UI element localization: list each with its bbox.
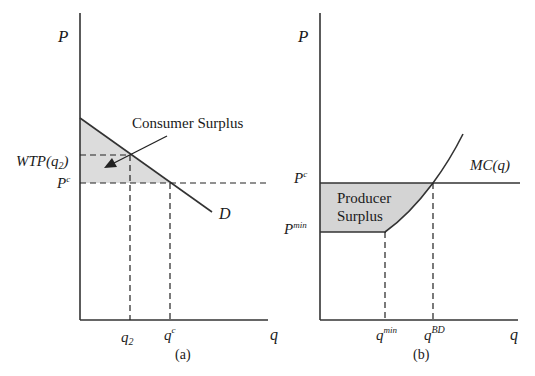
qmin-label: qmin	[376, 325, 398, 343]
surplus-diagram: P Consumer Surplus WTP(q2) Pc D q2 qc q …	[0, 0, 535, 376]
demand-curve-label: D	[218, 205, 231, 222]
panel-b-y-axis-label: P	[297, 27, 308, 46]
producer-surplus-label-line2: Surplus	[337, 208, 383, 224]
panel-a-x-axis-label: q	[270, 326, 278, 344]
pmin-label: Pmin	[283, 220, 307, 237]
panel-b-caption: (b)	[413, 347, 430, 363]
qc-label: qc	[164, 325, 176, 343]
panel-a-caption: (a)	[175, 347, 191, 363]
qbd-label: qBD	[424, 324, 446, 343]
producer-surplus-label-line1: Producer	[337, 190, 391, 206]
panel-a-consumer-surplus: P Consumer Surplus WTP(q2) Pc D q2 qc q …	[16, 13, 278, 363]
pc-label-a: Pc	[56, 174, 70, 191]
panel-b-producer-surplus: P MC(q) Pc Producer Surplus Pmin qmin qB…	[283, 13, 520, 363]
consumer-surplus-label: Consumer Surplus	[132, 115, 243, 131]
wtp-q2-label: WTP(q2)	[16, 153, 69, 171]
panel-a-y-axis-label: P	[57, 27, 68, 46]
panel-b-x-axis-label: q	[510, 326, 518, 344]
pc-label-b: Pc	[293, 169, 307, 186]
q2-label: q2	[121, 329, 134, 347]
mc-curve-label: MC(q)	[469, 157, 510, 174]
